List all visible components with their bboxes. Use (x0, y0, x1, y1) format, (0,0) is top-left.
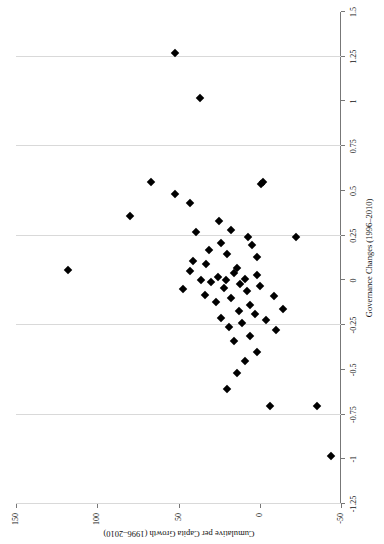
x-axis-line (340, 12, 341, 504)
gridline-vertical (16, 414, 341, 415)
scatter-point (246, 301, 254, 309)
y-tick-label: 100 (93, 513, 101, 525)
x-tick (341, 235, 345, 236)
scatter-point (252, 348, 260, 356)
scatter-point (212, 298, 220, 306)
gridline-vertical (16, 145, 341, 146)
scatter-point (312, 401, 320, 409)
scatter-point (195, 94, 203, 102)
scatter-point (126, 212, 134, 220)
scatter-point (243, 287, 251, 295)
x-tick-label: 0.5 (350, 186, 358, 196)
x-tick (341, 279, 345, 280)
scatter-point (186, 267, 194, 275)
scatter-point (179, 285, 187, 293)
y-tick (97, 504, 98, 508)
scatter-point (327, 451, 335, 459)
y-tick-label: -50 (337, 513, 345, 524)
x-tick-label: -0.5 (350, 363, 358, 376)
x-tick (341, 324, 345, 325)
scatter-point (265, 401, 273, 409)
x-tick-label: -1.25 (350, 496, 358, 513)
scatter-point (220, 283, 228, 291)
scatter-point (147, 178, 155, 186)
scatter-point (200, 290, 208, 298)
scatter-point (217, 314, 225, 322)
y-tick (16, 504, 17, 508)
scatter-point (213, 273, 221, 281)
scatter-point (247, 240, 255, 248)
scatter-point (230, 337, 238, 345)
figure-canvas: -1.25-1-0.75-0.5-0.2500.250.50.7511.251.… (0, 0, 384, 544)
scatter-point (215, 217, 223, 225)
x-tick (341, 458, 345, 459)
scatter-point (251, 310, 259, 318)
scatter-point (233, 369, 241, 377)
scatter-point (252, 253, 260, 261)
x-tick-label: 1.25 (350, 50, 358, 64)
x-tick (341, 100, 345, 101)
x-tick (341, 56, 345, 57)
scatter-point (278, 305, 286, 313)
x-axis-title: Governance Changes (1996–2010) (364, 199, 374, 318)
scatter-point (238, 319, 246, 327)
gridline-vertical (16, 324, 341, 325)
x-tick (341, 11, 345, 12)
y-axis-title: Cumulative per Capita Growth (1996–2010) (103, 529, 254, 539)
scatter-point (291, 233, 299, 241)
scatter-point (226, 294, 234, 302)
x-tick-label: -0.75 (350, 406, 358, 423)
plot-area: -1.25-1-0.75-0.5-0.2500.250.50.7511.251.… (16, 12, 341, 504)
scatter-point (226, 226, 234, 234)
x-tick-label: 1.5 (350, 7, 358, 17)
x-tick (341, 369, 345, 370)
scatter-point (202, 260, 210, 268)
scatter-point (223, 249, 231, 257)
scatter-point (189, 256, 197, 264)
gridline-vertical (16, 56, 341, 57)
scatter-point (186, 199, 194, 207)
y-tick (179, 504, 180, 508)
scatter-point (272, 326, 280, 334)
scatter-point (256, 281, 264, 289)
scatter-point (223, 385, 231, 393)
x-tick-label: -0.25 (350, 317, 358, 334)
scatter-point (171, 190, 179, 198)
scatter-point (252, 271, 260, 279)
scatter-point (262, 315, 270, 323)
x-tick-label: 0 (350, 278, 358, 282)
scatter-point (246, 332, 254, 340)
scatter-point (64, 265, 72, 273)
scatter-point (207, 278, 215, 286)
scatter-point (217, 239, 225, 247)
x-tick-label: 1 (350, 99, 358, 103)
scatter-point (270, 292, 278, 300)
y-tick (260, 504, 261, 508)
y-tick (341, 504, 342, 508)
scatter-figure: -1.25-1-0.75-0.5-0.2500.250.50.7511.251.… (0, 0, 384, 544)
x-tick-label: -1 (350, 456, 358, 463)
y-tick-label: 0 (256, 513, 264, 517)
y-tick-label: 50 (175, 513, 183, 521)
x-tick-label: 0.25 (350, 229, 358, 243)
x-tick-label: 0.75 (350, 139, 358, 153)
x-tick (341, 414, 345, 415)
x-tick (341, 190, 345, 191)
scatter-point (234, 307, 242, 315)
scatter-point (205, 246, 213, 254)
y-tick-label: 150 (12, 513, 20, 525)
scatter-point (197, 276, 205, 284)
scatter-point (241, 357, 249, 365)
x-tick (341, 145, 345, 146)
